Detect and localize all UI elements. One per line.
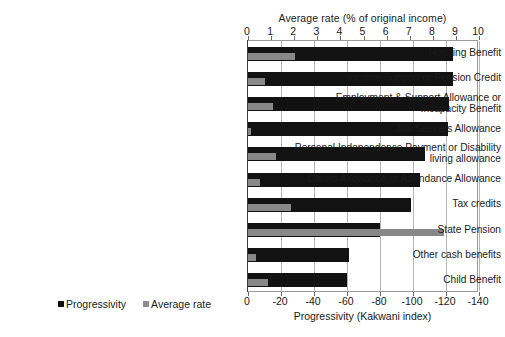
bottom-axis-title: Progressivity (Kakwani index) xyxy=(247,310,478,322)
top-axis-tick-1: 1 xyxy=(267,25,273,37)
bottom-axis-tick-3: -60 xyxy=(338,295,353,307)
top-axis-tick-8: 8 xyxy=(429,25,435,37)
bottom-axis-tick-0: 0 xyxy=(244,295,250,307)
bar-average-rate[interactable] xyxy=(248,128,251,135)
bottom-axis-tick-4: -80 xyxy=(371,295,386,307)
top-axis-tick-2: 2 xyxy=(290,25,296,37)
top-tickmark-0 xyxy=(248,36,249,40)
chart-container: Average rate (% of original income) 0123… xyxy=(0,0,505,337)
top-axis-tick-4: 4 xyxy=(336,25,342,37)
top-tickmark-1 xyxy=(271,36,272,40)
category-label: Job Seekers Allowance xyxy=(262,123,505,134)
bottom-axis-tick-1: -20 xyxy=(272,295,287,307)
top-tickmark-5 xyxy=(364,36,365,40)
top-axis-tick-0: 0 xyxy=(244,25,250,37)
top-axis-title: Average rate (% of original income) xyxy=(247,12,478,24)
top-tickmark-2 xyxy=(294,36,295,40)
top-tickmark-4 xyxy=(340,36,341,40)
category-label: State Pension xyxy=(262,224,505,235)
category-label: Employment & Support Allowance or Incapa… xyxy=(262,92,505,114)
top-tickmark-7 xyxy=(410,36,411,40)
legend-label: Average rate xyxy=(151,298,211,310)
bar-average-rate[interactable] xyxy=(248,254,256,261)
category-label: Other cash benefits xyxy=(262,249,505,260)
category-label: Child Benefit xyxy=(262,274,505,285)
bottom-axis-tick-2: -40 xyxy=(305,295,320,307)
top-axis-tick-3: 3 xyxy=(313,25,319,37)
chart-legend: ProgressivityAverage rate xyxy=(58,298,211,310)
top-axis-tick-6: 6 xyxy=(383,25,389,37)
bottom-axis-tick-6: -120 xyxy=(434,295,455,307)
bottom-axis-tick-7: -140 xyxy=(467,295,488,307)
top-axis-tick-10: 10 xyxy=(472,25,484,37)
top-tickmark-10 xyxy=(479,36,480,40)
category-label: Tax credits xyxy=(262,198,505,209)
category-label: Housing Benefit xyxy=(262,47,505,58)
top-axis-tick-5: 5 xyxy=(360,25,366,37)
legend-item-average-rate[interactable]: Average rate xyxy=(143,298,211,310)
top-axis-tick-labels: 012345678910 xyxy=(0,25,505,38)
bottom-axis-tick-5: -100 xyxy=(401,295,422,307)
top-tickmark-8 xyxy=(433,36,434,40)
category-label: Carers Allowance or Attendance Allowance xyxy=(262,173,505,184)
category-label: Income Support or Pension Credit xyxy=(262,72,505,83)
top-tickmark-3 xyxy=(317,36,318,40)
legend-swatch-icon xyxy=(143,301,149,307)
legend-label: Progressivity xyxy=(66,298,126,310)
legend-item-progressivity[interactable]: Progressivity xyxy=(58,298,126,310)
category-label: Personal Independence Payment or Disabil… xyxy=(262,142,505,164)
top-tickmark-9 xyxy=(456,36,457,40)
legend-swatch-icon xyxy=(58,301,64,307)
top-axis-tick-9: 9 xyxy=(452,25,458,37)
top-axis-tick-7: 7 xyxy=(406,25,412,37)
bar-average-rate[interactable] xyxy=(248,179,260,186)
top-tickmark-6 xyxy=(387,36,388,40)
